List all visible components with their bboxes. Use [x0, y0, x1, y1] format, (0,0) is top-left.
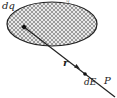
label-dq: dq	[2, 0, 15, 11]
field-point-dot	[83, 72, 87, 76]
charged-body	[7, 2, 97, 46]
electric-field-diagram: dq r dE P q	[0, 0, 117, 98]
arrowhead-icon	[74, 64, 80, 69]
label-r: r	[63, 57, 69, 68]
label-dE: dE	[84, 77, 97, 87]
label-P: P	[103, 75, 111, 86]
